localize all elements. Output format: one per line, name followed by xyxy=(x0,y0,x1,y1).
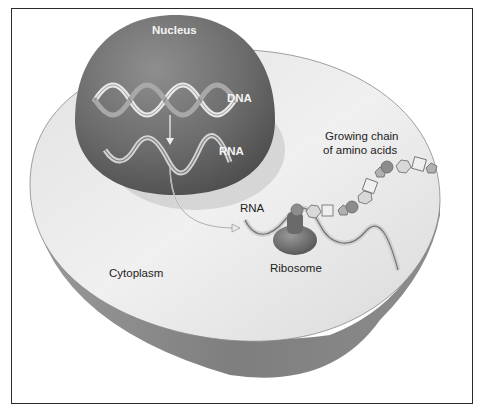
label-nucleus: Nucleus xyxy=(152,24,197,37)
label-ribosome: Ribosome xyxy=(270,262,322,275)
label-rna-nucleus: RNA xyxy=(219,145,244,158)
label-rna-cytoplasm: RNA xyxy=(240,202,264,215)
label-growing-chain-line1: Growing chain xyxy=(325,130,399,143)
label-dna: DNA xyxy=(227,92,252,105)
label-cytoplasm: Cytoplasm xyxy=(109,267,163,280)
label-growing-chain-line2: of amino acids xyxy=(323,144,397,157)
